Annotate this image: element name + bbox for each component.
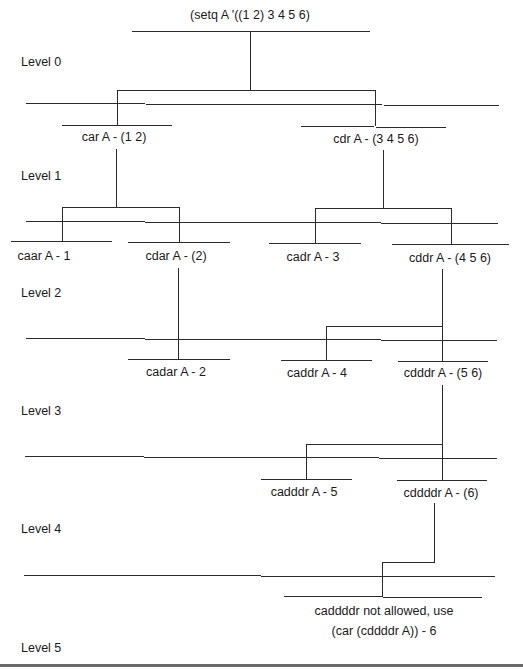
car-cdr-tree-diagram: (setq A '((1 2) 3 4 5 6) Level 0 Level 1… [0,0,523,669]
node-caddddr-note-line2: (car (cddddr A)) - 6 [332,624,437,638]
node-cddddr: cddddr A - (6) [403,486,478,500]
node-cdddr: cdddr A - (5 6) [404,366,483,380]
node-cadr: cadr A - 3 [287,250,340,264]
node-caddr: caddr A - 4 [287,366,347,380]
node-caar: caar A - 1 [18,249,71,263]
root-expression-label: (setq A '((1 2) 3 4 5 6) [190,8,310,22]
bottom-border-rule [0,664,523,667]
node-car: car A - (1 2) [82,130,147,144]
tree-connector-lines [0,0,523,669]
level-5-label: Level 5 [21,641,61,655]
level-4-label: Level 4 [21,522,61,536]
level-0-label: Level 0 [21,55,61,69]
level-1-label: Level 1 [21,169,61,183]
node-cadar: cadar A - 2 [146,365,206,379]
level-3-label: Level 3 [21,404,61,418]
node-cddr: cddr A - (4 5 6) [409,251,491,265]
node-caddddr-note-line1: caddddr not allowed, use [315,604,454,618]
node-cdar: cdar A - (2) [145,249,206,263]
node-cdr: cdr A - (3 4 5 6) [333,132,418,146]
node-cadddr: cadddr A - 5 [271,485,338,499]
level-2-label: Level 2 [21,286,61,300]
